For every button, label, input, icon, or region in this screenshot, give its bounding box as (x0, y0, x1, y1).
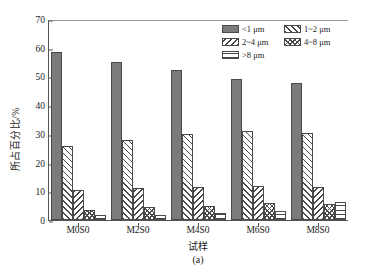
bar-group (169, 21, 229, 220)
bar (182, 134, 193, 220)
legend-swatch-icon (222, 38, 239, 46)
bar (264, 203, 275, 220)
legend-label: >8 μm (242, 51, 264, 60)
bar (122, 140, 133, 220)
x-axis-tick-label: M0S0 (48, 223, 108, 237)
panel-caption: (a) (48, 254, 348, 265)
x-axis-tick-mark (318, 223, 319, 227)
x-axis-tick-label: M8S0 (288, 223, 348, 237)
legend-swatch-icon (222, 51, 239, 59)
y-axis-tick-label: 30 (36, 131, 50, 141)
bar (95, 215, 106, 220)
x-axis-tick-mark (138, 223, 139, 227)
x-axis-tick-group: M0S0M2S0M4S0M6S0M8S0 (48, 223, 348, 237)
y-axis-tick-label: 70 (36, 16, 50, 26)
y-axis-tick-label: 60 (36, 45, 50, 55)
legend-swatch-icon (284, 38, 301, 46)
bar (73, 190, 84, 220)
bar (84, 210, 95, 220)
legend-item: 1~2 μm (284, 25, 346, 34)
bar (62, 146, 73, 220)
x-axis-tick-mark (78, 223, 79, 227)
bar (111, 62, 122, 220)
bar-group (49, 21, 109, 220)
bar (324, 204, 335, 220)
legend-label: 2~4 μm (242, 38, 268, 47)
bar (313, 187, 324, 220)
x-axis-tick-mark (258, 223, 259, 227)
legend-swatch-icon (284, 25, 301, 33)
bar (291, 83, 302, 220)
legend-item: 4~8 μm (284, 38, 346, 47)
bar (144, 207, 155, 220)
bar (302, 133, 313, 220)
bar (253, 186, 264, 220)
bar (204, 206, 215, 220)
legend-item: 2~4 μm (222, 38, 284, 47)
y-axis-tick-label: 20 (36, 160, 50, 170)
legend-item: >8 μm (222, 51, 284, 60)
y-axis-tick-label: 50 (36, 74, 50, 84)
legend-label: <1 μm (242, 25, 264, 34)
legend-item: <1 μm (222, 25, 284, 34)
bar (133, 188, 144, 220)
bar (335, 202, 346, 220)
legend-swatch-icon (222, 25, 239, 33)
legend-label: 4~8 μm (304, 38, 330, 47)
bar (51, 52, 62, 220)
y-axis-title: 所占百分比/% (7, 107, 22, 171)
bar-group (109, 21, 169, 220)
bar (231, 79, 242, 220)
x-axis-tick-label: M2S0 (108, 223, 168, 237)
bar-chart-figure: 所占百分比/% 010203040506070 M0S0M2S0M4S0M6S0… (0, 0, 372, 278)
x-axis-tick-label: M6S0 (228, 223, 288, 237)
y-axis-tick-label: 40 (36, 102, 50, 112)
bar (215, 213, 226, 220)
legend: <1 μm1~2 μm2~4 μm4~8 μm>8 μm (222, 25, 346, 64)
x-axis-title: 试样 (48, 238, 348, 253)
x-axis-tick-label: M4S0 (168, 223, 228, 237)
y-axis-tick-label: 10 (36, 189, 50, 199)
bar (275, 211, 286, 220)
bar (193, 187, 204, 220)
x-axis-tick-mark (198, 223, 199, 227)
bar (155, 215, 166, 220)
bar (171, 70, 182, 220)
legend-label: 1~2 μm (304, 25, 330, 34)
bar (242, 131, 253, 220)
